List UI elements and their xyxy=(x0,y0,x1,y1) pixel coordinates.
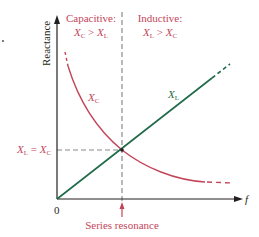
equality-label: XL = XC xyxy=(16,143,51,157)
inductive-title: Inductive: xyxy=(138,12,183,24)
xl-line xyxy=(57,64,230,199)
series-resonance-label: Series resonance xyxy=(85,219,159,231)
y-axis-arrow-icon xyxy=(54,15,60,24)
capacitive-relation: XC > XL xyxy=(73,26,108,40)
capacitive-title: Capacitive: xyxy=(66,12,116,24)
resonance-point xyxy=(120,148,124,152)
inductive-relation: XL > XC xyxy=(142,26,177,40)
capacitive-region-label: Capacitive: XC > XL xyxy=(66,12,116,40)
y-axis xyxy=(54,15,60,199)
reactance-diagram: Reactance f 0 Capacitive: XC > XL Induct… xyxy=(0,0,259,237)
y-axis-label: Reactance xyxy=(40,21,52,66)
resonance-arrow-icon xyxy=(120,202,125,217)
xl-line-label: XL xyxy=(167,88,179,102)
xc-curve-label: XC xyxy=(87,91,100,105)
x-axis xyxy=(57,196,243,202)
stray-dot xyxy=(2,40,4,42)
origin-label: 0 xyxy=(54,204,60,216)
inductive-region-label: Inductive: XL > XC xyxy=(138,12,183,40)
x-axis-arrow-icon xyxy=(234,196,243,202)
xc-curve xyxy=(65,52,233,183)
x-axis-label: f xyxy=(245,193,250,205)
